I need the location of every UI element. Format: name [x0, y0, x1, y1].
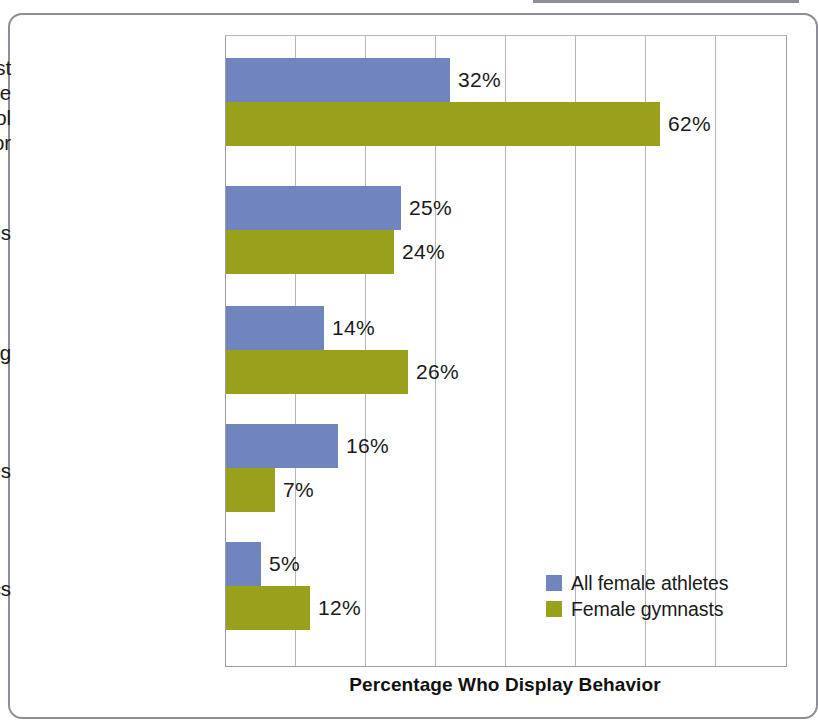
category-label-line: one self-destructive	[0, 80, 11, 105]
legend-label: All female athletes	[571, 572, 728, 595]
legend-swatch-icon	[546, 575, 562, 591]
bar-female-gymnasts	[226, 102, 660, 146]
bar-value-label: 5%	[269, 542, 300, 586]
bar-value-label: 62%	[668, 102, 711, 146]
category-label-line: behavior	[0, 130, 11, 155]
bar-value-label: 24%	[402, 230, 445, 274]
bar-value-label: 26%	[416, 350, 459, 394]
category-label: Ingest diet pills	[0, 220, 11, 245]
chart-legend: All female athletes Female gymnasts	[546, 570, 728, 622]
category-label-line: Use laxatives	[0, 458, 11, 483]
bar-all-female-athletes	[226, 306, 324, 350]
bar-value-label: 14%	[332, 306, 375, 350]
category-label: Engage in at least one self-destructive …	[0, 55, 11, 155]
x-axis-title: Percentage Who Display Behavior	[225, 674, 785, 696]
bar-female-gymnasts	[226, 586, 310, 630]
category-label: Use laxatives	[0, 458, 11, 483]
bar-value-label: 16%	[346, 424, 389, 468]
bar-female-gymnasts	[226, 230, 394, 274]
bar-all-female-athletes	[226, 186, 401, 230]
bar-all-female-athletes	[226, 424, 338, 468]
category-label-line: weight-control	[0, 105, 11, 130]
category-label-line: Use diuretics	[0, 576, 11, 601]
bar-value-label: 7%	[283, 468, 314, 512]
bar-female-gymnasts	[226, 350, 408, 394]
category-label-line: Induce vomiting	[0, 340, 11, 365]
category-label: Use diuretics	[0, 576, 11, 601]
bar-value-label: 32%	[458, 58, 501, 102]
legend-item-all-female-athletes: All female athletes	[546, 570, 728, 596]
bar-value-label: 25%	[409, 186, 452, 230]
bar-all-female-athletes	[226, 58, 450, 102]
bar-all-female-athletes	[226, 542, 261, 586]
category-label-line: Ingest diet pills	[0, 220, 11, 245]
category-label: Induce vomiting	[0, 340, 11, 365]
legend-swatch-icon	[546, 601, 562, 617]
legend-label: Female gymnasts	[571, 598, 723, 621]
bar-value-label: 12%	[318, 586, 361, 630]
legend-item-female-gymnasts: Female gymnasts	[546, 596, 728, 622]
bar-female-gymnasts	[226, 468, 275, 512]
category-label-line: Engage in at least	[0, 55, 11, 80]
